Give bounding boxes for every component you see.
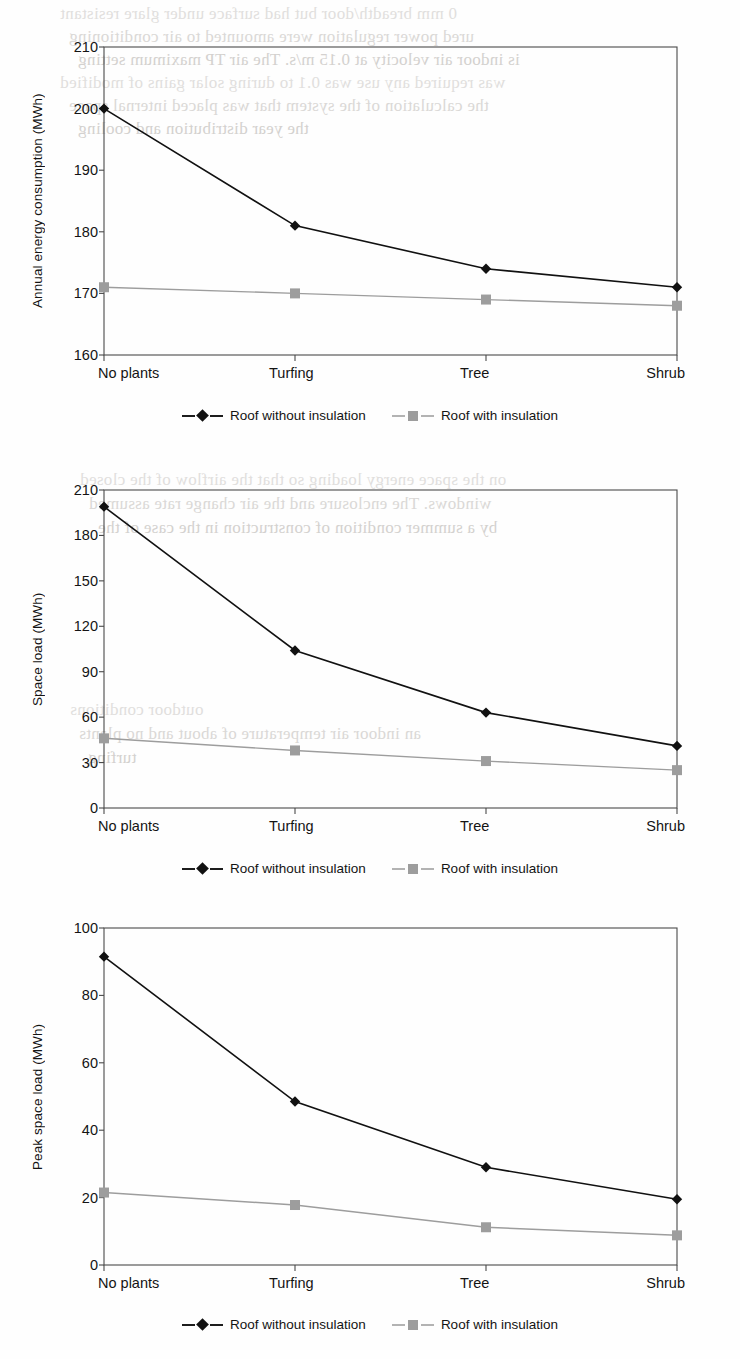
x-tick-label: No plants xyxy=(98,365,159,381)
data-point-square xyxy=(672,765,682,775)
legend-item[interactable]: Roof with insulation xyxy=(392,408,558,423)
legend-diamond-icon xyxy=(196,409,209,422)
x-tick-label: Shrub xyxy=(646,365,685,381)
legend-square-icon xyxy=(408,1320,418,1330)
legend-line-segment xyxy=(210,868,223,870)
legend-line-segment xyxy=(210,1324,223,1326)
data-point-diamond xyxy=(481,1162,491,1172)
data-point-square xyxy=(290,745,300,755)
x-tick-label: Turfing xyxy=(269,1275,314,1291)
series-line xyxy=(104,957,677,1200)
plot-frame xyxy=(104,928,677,1265)
legend-square-icon xyxy=(408,864,418,874)
data-point-diamond xyxy=(481,264,491,274)
legend-item[interactable]: Roof with insulation xyxy=(392,861,558,876)
series-line xyxy=(104,507,677,746)
series-line xyxy=(104,738,677,770)
legend-line-segment xyxy=(421,1324,434,1326)
legend-line-gray xyxy=(392,415,405,417)
plot-area xyxy=(0,440,740,880)
legend-line-dark xyxy=(182,868,195,870)
legend-item[interactable]: Roof without insulation xyxy=(182,861,366,876)
data-point-square xyxy=(290,288,300,298)
legend-line-gray xyxy=(392,1324,405,1326)
data-point-diamond xyxy=(672,282,682,292)
plot-frame xyxy=(104,47,677,355)
legend-label: Roof with insulation xyxy=(441,408,558,423)
legend-label: Roof without insulation xyxy=(230,1317,366,1332)
x-tick-label: Turfing xyxy=(269,365,314,381)
data-point-square xyxy=(99,733,109,743)
legend-line-dark xyxy=(182,415,195,417)
data-point-square xyxy=(481,295,491,305)
legend-line-dark xyxy=(182,1324,195,1326)
chart-peak-space-load: Peak space load (MWh)020406080100No plan… xyxy=(0,880,740,1359)
data-point-square xyxy=(481,756,491,766)
legend-square-icon xyxy=(408,411,418,421)
chart-annual-energy-consumption: Annual energy consumption (MWh)160170180… xyxy=(0,0,740,440)
x-tick-label: Turfing xyxy=(269,818,314,834)
legend-item[interactable]: Roof without insulation xyxy=(182,408,366,423)
series-line xyxy=(104,109,677,288)
legend-label: Roof without insulation xyxy=(230,408,366,423)
data-point-square xyxy=(290,1200,300,1210)
data-point-diamond xyxy=(290,220,300,230)
x-tick-label: Tree xyxy=(460,818,489,834)
x-tick-label: Tree xyxy=(460,1275,489,1291)
data-point-square xyxy=(481,1222,491,1232)
x-tick-label: No plants xyxy=(98,1275,159,1291)
legend-label: Roof without insulation xyxy=(230,861,366,876)
chart-legend: Roof without insulationRoof with insulat… xyxy=(0,408,740,423)
data-point-square xyxy=(99,282,109,292)
plot-frame xyxy=(104,490,677,808)
legend-label: Roof with insulation xyxy=(441,1317,558,1332)
series-line xyxy=(104,1193,677,1236)
data-point-diamond xyxy=(481,707,491,717)
chart-legend: Roof without insulationRoof with insulat… xyxy=(0,861,740,876)
series-line xyxy=(104,287,677,306)
legend-item[interactable]: Roof without insulation xyxy=(182,1317,366,1332)
legend-line-segment xyxy=(421,415,434,417)
legend-line-segment xyxy=(210,415,223,417)
x-tick-label: Tree xyxy=(460,365,489,381)
chart-legend: Roof without insulationRoof with insulat… xyxy=(0,1317,740,1332)
x-tick-label: Shrub xyxy=(646,1275,685,1291)
legend-item[interactable]: Roof with insulation xyxy=(392,1317,558,1332)
data-point-square xyxy=(99,1188,109,1198)
legend-line-gray xyxy=(392,868,405,870)
data-point-diamond xyxy=(99,103,109,113)
x-tick-label: No plants xyxy=(98,818,159,834)
legend-line-segment xyxy=(421,868,434,870)
data-point-diamond xyxy=(672,1194,682,1204)
legend-diamond-icon xyxy=(196,862,209,875)
data-point-square xyxy=(672,301,682,311)
data-point-square xyxy=(672,1230,682,1240)
chart-space-load: Space load (MWh)0306090120150180210No pl… xyxy=(0,440,740,880)
legend-label: Roof with insulation xyxy=(441,861,558,876)
data-point-diamond xyxy=(672,741,682,751)
x-tick-label: Shrub xyxy=(646,818,685,834)
legend-diamond-icon xyxy=(196,1318,209,1331)
